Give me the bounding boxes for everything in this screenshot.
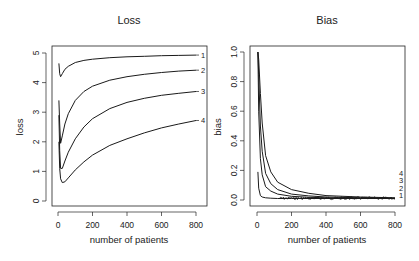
loss-x-tick-label: 200 bbox=[85, 220, 99, 230]
bias-curve-label-1: 1 bbox=[399, 191, 403, 200]
bias-curve-labels: 4321 bbox=[399, 169, 403, 200]
bias-y-tick-label: 0.2 bbox=[229, 164, 239, 176]
bias-panel: Bias number of patients bias 02004006008… bbox=[212, 14, 405, 245]
figure: Loss number of patients loss 02004006008… bbox=[0, 0, 419, 261]
bias-x-tick-label: 600 bbox=[353, 220, 367, 230]
loss-y-tick-label: 0 bbox=[31, 198, 41, 203]
bias-y-tick-label: 0.0 bbox=[229, 194, 239, 206]
bias-series-line-4 bbox=[258, 52, 395, 198]
bias-xlabel: number of patients bbox=[288, 234, 367, 245]
loss-y-ticks: 012345 bbox=[31, 50, 46, 203]
loss-y-tick-label: 2 bbox=[31, 139, 41, 144]
loss-curve-label-3: 3 bbox=[201, 87, 205, 96]
loss-y-tick-label: 1 bbox=[31, 169, 41, 174]
bias-x-tick-label: 0 bbox=[255, 220, 260, 230]
loss-curve-label-1: 1 bbox=[201, 51, 205, 60]
loss-y-tick-label: 5 bbox=[31, 50, 41, 55]
loss-title: Loss bbox=[117, 14, 141, 26]
loss-y-tick-label: 3 bbox=[31, 110, 41, 115]
bias-x-tick-label: 400 bbox=[319, 220, 333, 230]
loss-xlabel: number of patients bbox=[90, 234, 169, 245]
bias-y-tick-label: 1.0 bbox=[229, 46, 239, 58]
loss-series-line-4 bbox=[59, 121, 196, 183]
bias-y-tick-label: 0.6 bbox=[229, 105, 239, 117]
loss-x-tick-label: 0 bbox=[56, 220, 61, 230]
bias-x-ticks: 0200400600800 bbox=[255, 212, 403, 230]
loss-ylabel: loss bbox=[14, 118, 25, 135]
bias-ylabel: bias bbox=[212, 118, 223, 136]
bias-series-line-2 bbox=[258, 52, 395, 199]
loss-series-line-1 bbox=[59, 55, 196, 77]
bias-y-tick-label: 0.8 bbox=[229, 75, 239, 87]
loss-curve-label-4: 4 bbox=[201, 116, 205, 125]
loss-x-ticks: 0200400600800 bbox=[56, 212, 204, 230]
bias-y-tick-label: 0.4 bbox=[229, 135, 239, 147]
bias-x-tick-label: 800 bbox=[388, 220, 402, 230]
loss-x-tick-label: 800 bbox=[189, 220, 203, 230]
loss-x-tick-label: 600 bbox=[154, 220, 168, 230]
bias-title: Bias bbox=[316, 14, 338, 26]
bias-y-ticks: 0.00.20.40.60.81.0 bbox=[229, 46, 244, 206]
loss-series: 1234 bbox=[59, 51, 205, 183]
loss-x-tick-label: 400 bbox=[120, 220, 134, 230]
bias-plot-frame bbox=[250, 46, 405, 206]
bias-series bbox=[258, 52, 395, 200]
loss-y-tick-label: 4 bbox=[31, 80, 41, 85]
loss-curve-label-2: 2 bbox=[201, 66, 205, 75]
loss-plot-frame bbox=[52, 46, 207, 206]
loss-panel: Loss number of patients loss 02004006008… bbox=[14, 14, 207, 245]
bias-x-tick-label: 200 bbox=[284, 220, 298, 230]
bias-series-line-3 bbox=[258, 52, 395, 198]
loss-series-line-3 bbox=[59, 92, 196, 169]
